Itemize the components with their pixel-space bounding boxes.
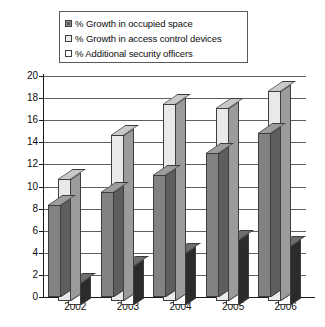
- bar-2005-series-1: [206, 153, 219, 297]
- y-axis-tick-mark: [39, 187, 43, 188]
- bar-top: [163, 94, 191, 104]
- bar-side: [134, 260, 144, 305]
- bar-face: [258, 133, 271, 297]
- legend-item-2: % Additional security officers: [65, 46, 242, 61]
- legend-item-0: % Growth in occupied space: [65, 16, 242, 31]
- legend-swatch-icon: [65, 50, 72, 57]
- bar-side: [229, 101, 239, 301]
- bar-side: [166, 169, 176, 297]
- bar-face: [101, 192, 114, 297]
- legend-item-1: % Growth in access control devices: [65, 31, 242, 46]
- y-axis-tick-mark: [39, 98, 43, 99]
- y-axis-tick-mark: [39, 275, 43, 276]
- y-axis-tick-mark: [39, 120, 43, 121]
- bar-side: [176, 98, 186, 301]
- bar-chart: % Growth in occupied space % Growth in a…: [0, 0, 325, 327]
- y-axis-tick-mark: [39, 142, 43, 143]
- bar-2004-series-1: [153, 175, 166, 297]
- bar-side: [239, 233, 249, 305]
- bar-face: [48, 205, 61, 297]
- legend-item-label: % Growth in access control devices: [75, 31, 222, 46]
- bar-side: [291, 240, 301, 305]
- bar-side: [281, 84, 291, 301]
- legend-item-label: % Additional security officers: [75, 46, 193, 61]
- bar-side: [271, 127, 281, 297]
- bar-face: [153, 175, 166, 297]
- y-axis-tick-mark: [39, 253, 43, 254]
- bar-top: [268, 81, 296, 91]
- legend-item-label: % Growth in occupied space: [75, 16, 193, 31]
- bar-2003-series-1: [101, 192, 114, 297]
- bar-face: [206, 153, 219, 297]
- legend-swatch-icon: [65, 20, 72, 27]
- y-axis-tick-mark: [39, 231, 43, 232]
- bar-side: [124, 129, 134, 301]
- bar-2002-series-1: [48, 205, 61, 297]
- bar-side: [71, 173, 81, 301]
- y-axis-tick-mark: [39, 164, 43, 165]
- bar-top: [58, 169, 86, 179]
- y-axis-tick-mark: [39, 297, 43, 298]
- bar-side: [219, 147, 229, 297]
- bar-side: [61, 199, 71, 297]
- bar-top: [111, 125, 139, 135]
- y-axis-tick-mark: [39, 209, 43, 210]
- bar-2006-series-1: [258, 133, 271, 297]
- y-axis-tick-mark: [39, 76, 43, 77]
- bar-top: [216, 98, 244, 108]
- legend-swatch-icon: [65, 35, 72, 42]
- bar-side: [186, 246, 196, 305]
- bar-side: [114, 185, 124, 297]
- chart-legend: % Growth in occupied space % Growth in a…: [59, 11, 248, 63]
